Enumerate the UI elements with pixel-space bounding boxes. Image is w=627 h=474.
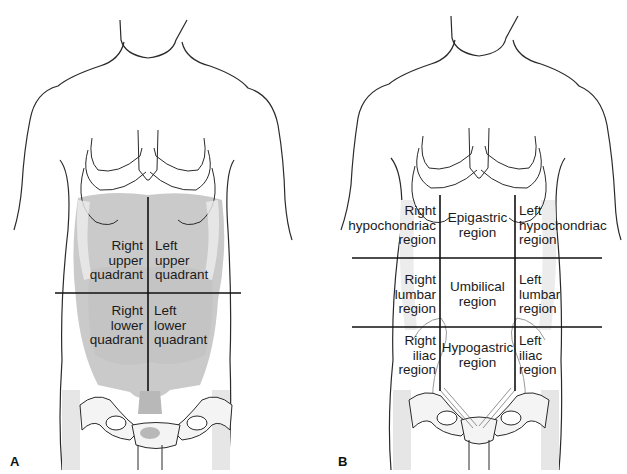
region-label-right-lumbar: Right lumbar region — [373, 273, 436, 317]
region-label-umbilical: Umbilical region — [440, 280, 515, 309]
region-label-hypogastric: Hypogastric region — [440, 341, 515, 370]
region-label-llq: Left lower quadrant — [154, 304, 224, 348]
panel-a-quadrants: Right upper quadrant Left upper quadrant… — [0, 0, 313, 474]
region-label-right-iliac: Right iliac region — [373, 334, 436, 378]
region-label-luq: Left upper quadrant — [155, 239, 225, 283]
region-label-left-iliac: Left iliac region — [519, 334, 579, 378]
region-label-epigastric: Epigastric region — [440, 211, 515, 240]
panel-b-regions: Right hypochondriac region Epigastric re… — [313, 0, 627, 474]
region-label-left-hypochondriac: Left hypochondriac region — [519, 204, 619, 248]
panel-letter-b: B — [338, 454, 347, 469]
panel-letter-a: A — [10, 454, 19, 469]
region-label-left-lumbar: Left lumbar region — [519, 273, 579, 317]
region-label-rlq: Right lower quadrant — [84, 304, 143, 348]
region-label-ruq: Right upper quadrant — [84, 239, 143, 283]
torso-illustration-a — [0, 0, 313, 474]
region-label-right-hypochondriac: Right hypochondriac region — [341, 204, 436, 248]
